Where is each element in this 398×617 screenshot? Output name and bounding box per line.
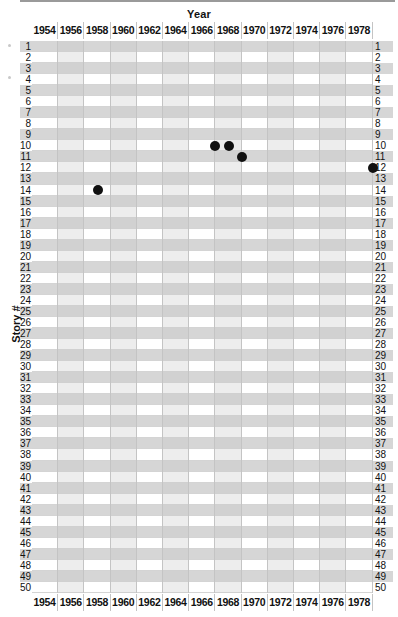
- y-tick-label: 48: [373, 560, 393, 571]
- y-tick-label: 21: [20, 262, 32, 273]
- y-tick-label: 13: [373, 173, 393, 184]
- y-tick-label: 34: [20, 405, 32, 416]
- x-tick-label: 1972: [268, 22, 294, 39]
- y-tick-label: 29: [20, 350, 32, 361]
- y-tick-label: 50: [373, 582, 393, 593]
- y-tick-label: 44: [373, 516, 393, 527]
- binding-mark: [8, 44, 11, 47]
- x-tick-label: 1972: [268, 594, 294, 611]
- data-point: [368, 163, 378, 173]
- y-tick-label: 22: [373, 273, 393, 284]
- y-tick-label: 32: [373, 383, 393, 394]
- y-tick-label: 12: [20, 162, 32, 173]
- y-tick-label: 1: [20, 41, 32, 52]
- x-tick-label: 1970: [242, 22, 268, 39]
- grid-column: [32, 41, 58, 593]
- x-tick-label: 1958: [84, 594, 110, 611]
- grid-column: [268, 41, 294, 593]
- y-tick-label: 5: [20, 85, 32, 96]
- y-tick-label: 25: [20, 306, 32, 317]
- y-tick-label: 36: [20, 427, 32, 438]
- data-point: [224, 141, 234, 151]
- x-tick-label: 1962: [137, 594, 163, 611]
- x-tick-label: 1964: [163, 594, 189, 611]
- x-tick-label: 1960: [111, 594, 137, 611]
- y-tick-label: 42: [20, 494, 32, 505]
- y-tick-label: 14: [373, 185, 393, 196]
- y-tick-label: 32: [20, 383, 32, 394]
- x-tick-label: 1968: [215, 594, 241, 611]
- y-tick-label: 8: [373, 118, 393, 129]
- x-tick-label: 1960: [111, 22, 137, 39]
- y-tick-label: 2: [20, 52, 32, 63]
- x-tick-label: 1966: [189, 594, 215, 611]
- y-tick-label: 13: [20, 173, 32, 184]
- y-tick-label: 35: [20, 416, 32, 427]
- x-tick-label: 1974: [294, 594, 320, 611]
- y-tick-label: 7: [373, 107, 393, 118]
- y-tick-label: 9: [373, 129, 393, 140]
- y-tick-label: 37: [20, 438, 32, 449]
- y-tick-label: 16: [20, 207, 32, 218]
- y-tick-label: 45: [373, 527, 393, 538]
- y-tick-label: 15: [373, 196, 393, 207]
- y-tick-label: 20: [20, 251, 32, 262]
- y-tick-label: 11: [20, 151, 32, 162]
- y-tick-label: 38: [373, 449, 393, 460]
- y-tick-label: 27: [20, 328, 32, 339]
- y-tick-label: 3: [373, 63, 393, 74]
- y-tick-label: 5: [373, 85, 393, 96]
- y-tick-label: 20: [373, 251, 393, 262]
- x-tick-label: 1966: [189, 22, 215, 39]
- y-tick-label: 17: [20, 218, 32, 229]
- top-rule: [20, 0, 395, 2]
- y-tick-label: 10: [20, 140, 32, 151]
- y-tick-label: 14: [20, 185, 32, 196]
- y-tick-label: 23: [20, 284, 32, 295]
- y-tick-label: 11: [373, 151, 393, 162]
- data-point: [93, 185, 103, 195]
- y-tick-label: 23: [373, 284, 393, 295]
- y-tick-label: 31: [373, 372, 393, 383]
- y-tick-label: 41: [373, 483, 393, 494]
- grid-column: [215, 41, 241, 593]
- y-tick-label: 1: [373, 41, 393, 52]
- x-tick-label: 1968: [215, 22, 241, 39]
- x-tick-label: 1976: [320, 594, 346, 611]
- y-tick-label: 36: [373, 427, 393, 438]
- y-tick-label: 29: [373, 350, 393, 361]
- y-tick-label: 25: [373, 306, 393, 317]
- y-tick-label: 47: [373, 549, 393, 560]
- grid-column: [58, 41, 84, 593]
- grid-column: [242, 41, 268, 593]
- y-tick-label: 7: [20, 107, 32, 118]
- grid-column: [84, 41, 110, 593]
- y-tick-label: 33: [373, 394, 393, 405]
- x-tick-label: 1956: [58, 22, 84, 39]
- y-tick-label: 10: [373, 140, 393, 151]
- y-tick-label: 26: [373, 317, 393, 328]
- x-tick-label: 1976: [320, 22, 346, 39]
- y-tick-label: 49: [20, 571, 32, 582]
- y-tick-label: 18: [373, 229, 393, 240]
- y-tick-label: 6: [373, 96, 393, 107]
- y-tick-label: 18: [20, 229, 32, 240]
- y-tick-label: 38: [20, 449, 32, 460]
- y-tick-label: 43: [20, 505, 32, 516]
- data-point: [237, 152, 247, 162]
- x-tick-label: 1954: [32, 22, 58, 39]
- x-axis-header-bottom: 1954195619581960196219641966196819701972…: [32, 594, 373, 611]
- y-tick-label: 33: [20, 394, 32, 405]
- y-tick-label: 19: [20, 240, 32, 251]
- grid-column: [294, 41, 320, 593]
- grid-column: [163, 41, 189, 593]
- grid-column: [137, 41, 163, 593]
- grid-column: [111, 41, 137, 593]
- y-tick-label: 43: [373, 505, 393, 516]
- y-tick-label: 28: [373, 339, 393, 350]
- plot-grid: [32, 41, 373, 593]
- y-tick-label: 17: [373, 218, 393, 229]
- y-tick-label: 4: [20, 74, 32, 85]
- x-tick-label: 1956: [58, 594, 84, 611]
- y-tick-label: 3: [20, 63, 32, 74]
